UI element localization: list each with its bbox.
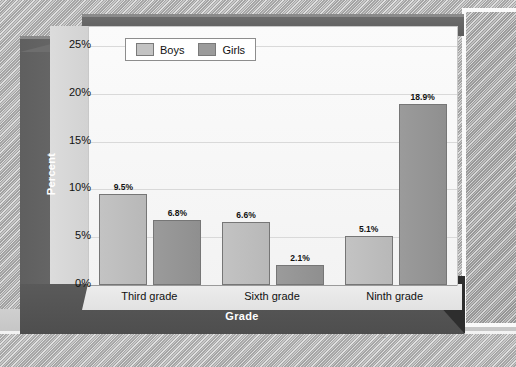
bar-value-label: 5.1% bbox=[359, 224, 378, 234]
legend-swatch-girls-icon bbox=[198, 43, 216, 56]
legend-item-girls: Girls bbox=[198, 43, 245, 56]
figure-page: Percent Grade 9.5%6.8%6.6%2.1%5.1%18.9% … bbox=[0, 0, 516, 367]
x-axis-category-label: Ninth grade bbox=[366, 290, 423, 302]
bar-girls-ninth-grade[interactable]: 18.9% bbox=[399, 104, 447, 285]
y-axis-tick-label: 10% bbox=[51, 181, 91, 193]
legend-swatch-boys-icon bbox=[136, 43, 154, 56]
bar-boys-third-grade[interactable]: 9.5% bbox=[99, 194, 147, 285]
gridline-y bbox=[89, 94, 457, 95]
plot-area: 9.5%6.8%6.6%2.1%5.1%18.9% bbox=[88, 26, 458, 286]
bar-boys-ninth-grade[interactable]: 5.1% bbox=[345, 236, 393, 285]
legend-label-girls: Girls bbox=[222, 44, 245, 56]
y-axis-tick-label: 5% bbox=[51, 229, 91, 241]
bar-value-label: 6.6% bbox=[236, 210, 255, 220]
chart-3d-top-bevel bbox=[82, 14, 464, 17]
bar-value-label: 9.5% bbox=[114, 182, 133, 192]
legend-label-boys: Boys bbox=[160, 44, 184, 56]
x-axis-category-label: Third grade bbox=[121, 290, 177, 302]
x-axis-title-text: Grade bbox=[225, 310, 258, 322]
scan-speck: ~ bbox=[382, 334, 386, 341]
y-axis-title: Percent bbox=[20, 36, 82, 312]
bar-value-label: 18.9% bbox=[411, 92, 435, 102]
bar-girls-sixth-grade[interactable]: 2.1% bbox=[276, 265, 324, 285]
right-side-panel bbox=[462, 8, 516, 327]
bar-value-label: 2.1% bbox=[290, 253, 309, 263]
y-axis-tick-label: 15% bbox=[51, 134, 91, 146]
x-axis-line bbox=[89, 285, 457, 286]
bar-chart: Percent Grade 9.5%6.8%6.6%2.1%5.1%18.9% … bbox=[10, 14, 465, 334]
bar-value-label: 6.8% bbox=[168, 208, 187, 218]
y-axis-tick-label: 25% bbox=[51, 38, 91, 50]
y-axis-tick-label: 20% bbox=[51, 86, 91, 98]
bar-girls-third-grade[interactable]: 6.8% bbox=[153, 220, 201, 285]
legend-item-boys: Boys bbox=[136, 43, 184, 56]
y-axis-tick-label: 0% bbox=[51, 277, 91, 289]
chart-legend: Boys Girls bbox=[125, 38, 256, 61]
x-axis-category-label: Sixth grade bbox=[244, 290, 300, 302]
bar-boys-sixth-grade[interactable]: 6.6% bbox=[222, 222, 270, 285]
